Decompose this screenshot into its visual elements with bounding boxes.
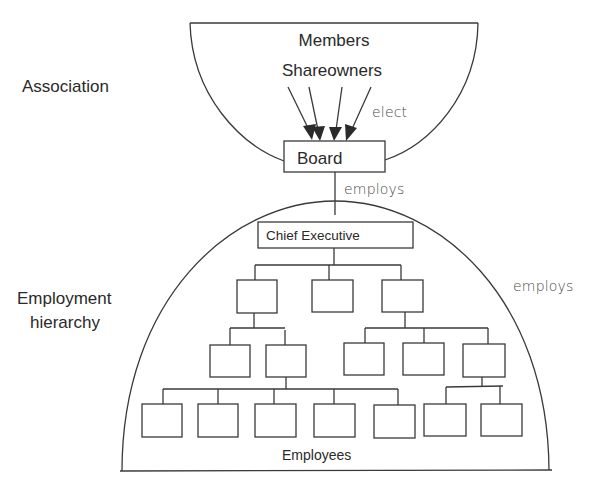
level3-boxes (142, 404, 522, 438)
elect-label: elect (372, 104, 407, 120)
connectors-level2 (230, 312, 488, 345)
org-box (312, 280, 353, 312)
bowl-right-curve (385, 23, 478, 160)
arrowhead-icon (312, 126, 325, 141)
hierarchy-employs-label: employs (513, 278, 574, 294)
connectors-level1 (255, 248, 401, 280)
org-box (314, 404, 355, 437)
elect-arrows (288, 87, 371, 141)
org-box (142, 404, 182, 437)
elect-arrow-3 (336, 87, 342, 130)
employees-label: Employees (282, 447, 351, 463)
arrowhead-icon (329, 127, 342, 141)
org-box (374, 405, 415, 438)
employment-label-line2: hierarchy (30, 313, 100, 332)
org-box (463, 344, 505, 377)
shareowners-label: Shareowners (282, 61, 382, 80)
chief-executive-node: Chief Executive (258, 222, 413, 248)
level2-boxes (210, 343, 505, 377)
elect-arrow-1 (288, 87, 309, 130)
org-box (255, 404, 296, 437)
board-employs-label: employs (344, 181, 405, 197)
chief-executive-label: Chief Executive (266, 228, 360, 243)
org-box (424, 404, 466, 436)
members-label: Members (299, 31, 370, 50)
org-box (382, 280, 423, 312)
arrowhead-icon (345, 124, 357, 141)
employment-label-line1: Employment (17, 289, 112, 308)
org-box (344, 343, 384, 375)
bowl-left-curve (190, 23, 284, 161)
level1-boxes (237, 280, 423, 313)
board-label: Board (297, 149, 342, 168)
org-box (403, 343, 444, 375)
board-node: Board (284, 141, 385, 172)
org-box (237, 280, 277, 313)
org-box (481, 404, 522, 436)
connectors-level3 (163, 377, 503, 405)
elect-arrow-4 (352, 87, 371, 129)
governance-diagram: Association Members Shareowners elect Bo… (0, 0, 593, 491)
org-box (266, 345, 306, 377)
org-box (198, 404, 238, 437)
org-box (210, 345, 250, 377)
arrowhead-icon (303, 124, 316, 140)
elect-arrow-2 (309, 87, 318, 130)
association-label: Association (22, 77, 109, 96)
dome-base-line (120, 470, 552, 471)
